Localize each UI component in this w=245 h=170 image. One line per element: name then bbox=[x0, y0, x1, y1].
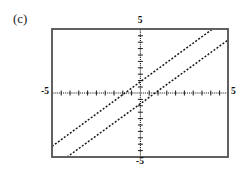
plot-canvas bbox=[0, 0, 245, 170]
axis-label-y-min: -5 bbox=[131, 156, 149, 166]
axis-label-x-min: -5 bbox=[33, 86, 49, 96]
axis-label-y-max: 5 bbox=[131, 15, 149, 25]
figure-panel: (c) bbox=[0, 0, 245, 170]
axis-label-x-max: 5 bbox=[231, 86, 245, 96]
